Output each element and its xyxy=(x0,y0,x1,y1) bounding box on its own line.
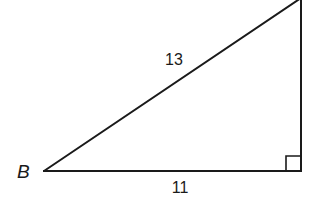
right-triangle-diagram: B 13 11 xyxy=(0,0,309,198)
right-angle-marker-icon xyxy=(286,156,301,171)
base-length-label: 11 xyxy=(172,179,189,196)
hypotenuse-length-label: 13 xyxy=(165,51,183,68)
vertex-label-b: B xyxy=(17,161,30,182)
hypotenuse-side xyxy=(44,0,301,171)
